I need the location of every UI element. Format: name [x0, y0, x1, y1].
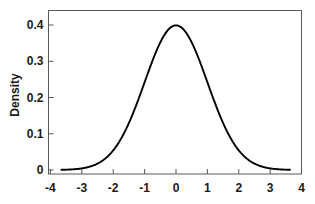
- density-curve: [61, 25, 290, 169]
- y-axis-ticks: [49, 25, 54, 170]
- y-tick-label: 0: [37, 164, 44, 176]
- x-tick-label: -3: [76, 182, 87, 194]
- x-tick-label: 2: [235, 182, 242, 194]
- y-tick-label: 0.4: [27, 19, 44, 31]
- x-tick-label: 1: [204, 182, 211, 194]
- x-tick-label: -1: [139, 182, 150, 194]
- x-tick-label: 4: [298, 182, 305, 194]
- x-tick-label: 0: [173, 182, 180, 194]
- x-tick-label: -2: [108, 182, 119, 194]
- density-plot-figure: -4-3-2-101234 00.10.20.30.4 Density: [0, 0, 315, 204]
- y-tick-label: 0.2: [27, 92, 44, 104]
- y-tick-label: 0.1: [27, 128, 44, 140]
- x-tick-label: 3: [267, 182, 274, 194]
- plot-frame: [49, 11, 302, 175]
- x-axis-ticks: [50, 169, 301, 174]
- plot-area: [0, 0, 315, 204]
- x-tick-label: -4: [45, 182, 56, 194]
- y-axis-label: Density: [9, 73, 21, 116]
- y-tick-label: 0.3: [27, 55, 44, 67]
